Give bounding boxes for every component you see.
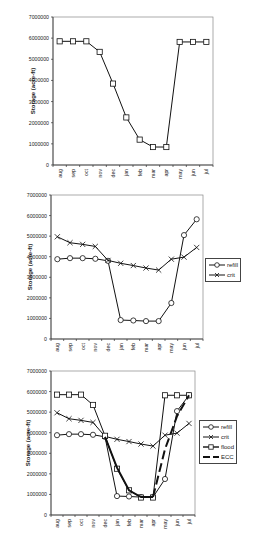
circle-marker-icon (169, 300, 174, 305)
y-tick-label: 2000000 (29, 120, 49, 126)
circle-marker-icon (55, 257, 60, 262)
x-tick-label: oct (83, 168, 89, 175)
circle-marker-icon (118, 317, 123, 322)
circle-marker-icon (156, 319, 161, 324)
square-marker-icon (70, 39, 75, 44)
x-tick-label: dec (110, 169, 116, 178)
x-tick-label: apr (163, 169, 169, 177)
x-tick-label: jun (190, 169, 196, 177)
y-tick-label: 0 (44, 512, 47, 518)
x-tick-label: feb (137, 169, 143, 176)
legend-chart-2: refill crit (205, 258, 241, 282)
square-marker-icon (164, 144, 169, 149)
square-marker-icon (90, 402, 95, 407)
y-tick-label: 5000000 (27, 233, 47, 239)
square-marker-icon (97, 49, 102, 54)
x-tick-label: sep (70, 169, 76, 177)
x-tick-label: feb (130, 343, 136, 350)
x-tick-label: jan (114, 519, 120, 527)
x-tick-label: jul (194, 343, 200, 349)
chart-all-curves: 0100000020000003000000400000050000006000… (0, 360, 254, 543)
x-tick-label: may (168, 343, 174, 353)
y-tick-label: 6000000 (29, 35, 49, 41)
square-marker-icon (204, 39, 209, 44)
x-tick-label: aug (57, 169, 63, 178)
y-tick-label: 7000000 (27, 192, 47, 198)
dashed-line-icon (202, 453, 220, 461)
x-tick-label: apr (156, 343, 162, 351)
x-tick-label: may (177, 169, 183, 179)
x-tick-label: jun (181, 343, 187, 351)
x-tick-label: mar (150, 169, 156, 178)
y-axis-label: Storage (acre-ft) (25, 420, 31, 466)
circle-marker-icon (54, 433, 59, 438)
y-tick-label: 2000000 (27, 471, 47, 477)
square-marker-icon (66, 392, 71, 397)
x-tick-label: jan (123, 169, 129, 177)
x-tick-label: aug (54, 519, 60, 528)
plot-area (51, 371, 195, 515)
square-marker-icon (84, 39, 89, 44)
legend-item-refill: refill (208, 260, 238, 270)
legend-label: crit (227, 272, 235, 278)
x-tick-label: feb (126, 519, 132, 526)
x-tick-label: mar (143, 343, 149, 352)
legend-label: refill (227, 262, 238, 268)
legend-item-refill: refill (202, 422, 234, 432)
x-tick-label: dec (102, 519, 108, 528)
square-marker-icon (57, 39, 62, 44)
circle-marker-icon (90, 432, 95, 437)
y-tick-label: 1000000 (27, 491, 47, 497)
square-marker-icon (78, 392, 83, 397)
y-tick-label: 0 (46, 162, 49, 168)
chart-refill-crit: 0100000020000003000000400000050000006000… (0, 182, 254, 360)
circle-marker-icon (114, 493, 119, 498)
chart-flood: 0100000020000003000000400000050000006000… (0, 0, 254, 182)
square-marker-icon (177, 39, 182, 44)
x-tick-label: apr (150, 519, 156, 527)
circle-marker-icon (181, 233, 186, 238)
x-tick-label: nov (97, 169, 103, 178)
legend-label: crit (221, 434, 229, 440)
square-marker-icon (54, 392, 59, 397)
x-tick-label: oct (80, 342, 86, 349)
y-tick-label: 1000000 (27, 315, 47, 321)
x-tick-label: dec (105, 343, 111, 352)
square-marker-icon (174, 393, 179, 398)
x-tick-label: jun (174, 519, 180, 527)
legend-chart-3: refill crit flood ECC (199, 420, 237, 464)
circle-marker-icon (126, 494, 131, 499)
circle-marker-icon (93, 256, 98, 261)
circle-marker-icon (80, 256, 85, 261)
x-tick-label: jan (118, 343, 124, 351)
legend-item-flood: flood (202, 442, 234, 452)
circle-marker-icon (131, 318, 136, 323)
x-tick-label: aug (54, 343, 60, 352)
x-tick-label: nov (90, 519, 96, 528)
circle-marker-icon (202, 423, 220, 431)
y-tick-label: 0 (44, 336, 47, 342)
y-tick-label: 6000000 (27, 389, 47, 395)
x-tick-label: sep (66, 519, 72, 527)
x-tick-label: jul (203, 169, 209, 175)
square-marker-icon (110, 81, 115, 86)
y-tick-label: 5000000 (29, 56, 49, 62)
x-marker-icon (202, 433, 220, 441)
square-marker-icon (202, 443, 220, 451)
square-marker-icon (162, 393, 167, 398)
square-marker-icon (150, 144, 155, 149)
legend-item-ecc: ECC (202, 452, 234, 462)
y-tick-label: 2000000 (27, 295, 47, 301)
x-tick-label: nov (92, 343, 98, 352)
circle-marker-icon (162, 476, 167, 481)
x-tick-label: mar (138, 519, 144, 528)
circle-marker-icon (67, 256, 72, 261)
square-marker-icon (124, 115, 129, 120)
x-tick-label: jul (186, 519, 192, 525)
circle-marker-icon (194, 217, 199, 222)
square-marker-icon (190, 39, 195, 44)
y-axis-label: Storage (acre-ft) (27, 244, 33, 290)
legend-label: flood (221, 444, 234, 450)
circle-marker-icon (208, 261, 226, 269)
x-tick-label: oct (78, 518, 84, 525)
